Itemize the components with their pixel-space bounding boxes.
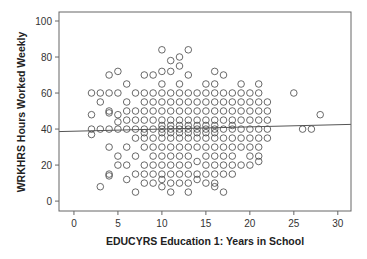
scatter-chart: 051015202530 020406080100 EDUCYRS Educat… xyxy=(0,0,367,259)
y-tick-label: 20 xyxy=(41,160,53,171)
x-tick-label: 5 xyxy=(115,218,121,229)
x-tick-label: 0 xyxy=(71,218,77,229)
y-tick-label: 40 xyxy=(41,124,53,135)
y-tick-label: 60 xyxy=(41,88,53,99)
y-tick-label: 100 xyxy=(35,16,52,27)
x-tick-label: 20 xyxy=(244,218,256,229)
x-tick-label: 25 xyxy=(288,218,300,229)
y-tick-label: 0 xyxy=(46,196,52,207)
x-tick-label: 15 xyxy=(200,218,212,229)
x-tick-label: 10 xyxy=(156,218,168,229)
y-tick-label: 80 xyxy=(41,52,53,63)
y-axis-title: WRKHRS Hours Worked Weekly xyxy=(15,32,27,193)
x-tick-label: 30 xyxy=(332,218,344,229)
x-axis-title: EDUCYRS Education 1: Years in School xyxy=(106,235,304,247)
